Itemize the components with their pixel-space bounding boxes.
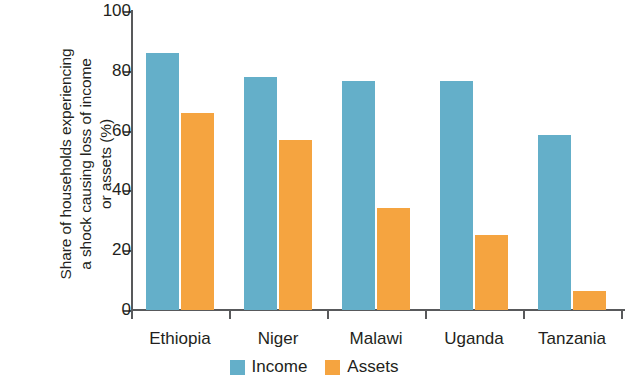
y-axis-tick-label: 20 xyxy=(112,240,131,260)
x-axis-tick-mark xyxy=(229,310,231,319)
plot-area: 020406080100 EthiopiaNigerMalawiUgandaTa… xyxy=(131,11,621,310)
bar-malawi-assets xyxy=(377,208,410,310)
x-axis-tick-mark xyxy=(621,310,623,319)
y-axis-tick-label: 80 xyxy=(112,61,131,81)
legend-item-assets[interactable]: Assets xyxy=(325,357,398,377)
bar-tanzania-assets xyxy=(573,291,606,310)
bar-niger-income xyxy=(244,77,277,310)
bar-niger-assets xyxy=(279,140,312,310)
bar-uganda-income xyxy=(440,81,473,310)
x-axis-label-ethiopia: Ethiopia xyxy=(149,329,210,349)
chart-legend: IncomeAssets xyxy=(0,357,628,377)
bar-malawi-income xyxy=(342,81,375,310)
bar-ethiopia-income xyxy=(146,53,179,310)
x-axis-label-malawi: Malawi xyxy=(350,329,403,349)
legend-swatch-assets xyxy=(325,360,340,375)
x-axis-label-tanzania: Tanzania xyxy=(538,329,606,349)
x-axis-tick-mark xyxy=(523,310,525,319)
y-axis-tick-label: 40 xyxy=(112,180,131,200)
x-axis-label-niger: Niger xyxy=(258,329,299,349)
bar-ethiopia-assets xyxy=(181,113,214,310)
y-axis-title-container: Share of households experiencing a shock… xyxy=(0,0,62,330)
y-axis-title: Share of households experiencing a shock… xyxy=(56,6,116,322)
bar-uganda-assets xyxy=(475,235,508,310)
legend-item-income[interactable]: Income xyxy=(230,357,308,377)
bar-chart-figure: Share of households experiencing a shock… xyxy=(0,0,628,389)
legend-label-income: Income xyxy=(252,357,308,377)
legend-swatch-income xyxy=(230,360,245,375)
bar-tanzania-income xyxy=(538,135,571,310)
y-axis-tick-label: 0 xyxy=(122,300,131,320)
x-axis-tick-mark xyxy=(131,310,133,319)
x-axis-tick-mark xyxy=(327,310,329,319)
x-axis-tick-mark xyxy=(425,310,427,319)
x-axis-label-uganda: Uganda xyxy=(444,329,504,349)
y-axis-tick-label: 60 xyxy=(112,121,131,141)
y-axis-tick-label: 100 xyxy=(103,1,131,21)
legend-label-assets: Assets xyxy=(347,357,398,377)
